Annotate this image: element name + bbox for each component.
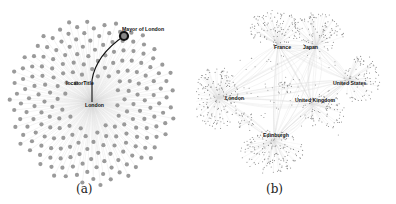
edge-label-locator-title: locatorTitle <box>66 80 94 86</box>
caption-a: (a) <box>76 182 93 196</box>
cluster-label-united-kingdom: United Kingdom <box>295 97 335 103</box>
graph-edges <box>196 13 378 173</box>
caption-b: (b) <box>266 182 283 196</box>
cluster-label-japan: Japan <box>303 44 318 50</box>
panel-a-radial-graph: Mayor of London locatorTitle London <box>0 0 200 204</box>
cluster-label-london: London <box>225 95 244 101</box>
cluster-label-united-states: United States <box>333 80 366 86</box>
cluster-graph-canvas: France Japan United States London United… <box>196 0 396 204</box>
radial-graph-canvas: Mayor of London locatorTitle London <box>0 0 200 204</box>
london-hub-label: London <box>85 102 104 108</box>
mayor-of-london-node <box>120 32 128 40</box>
cluster-label-edinburgh: Edinburgh <box>263 132 289 138</box>
mayor-of-london-label: Mayor of London <box>122 26 164 32</box>
panel-b-cluster-graph: France Japan United States London United… <box>196 0 396 204</box>
cluster-label-france: France <box>274 44 291 50</box>
graph-nodes <box>196 10 380 174</box>
